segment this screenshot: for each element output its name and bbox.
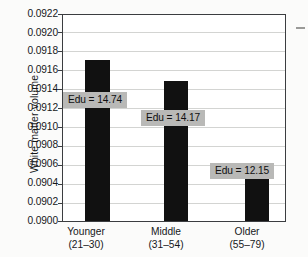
- y-axis-tick-labels: 0.0922 0.0920 0.0918 0.0916 0.0914 0.091…: [12, 0, 58, 257]
- y-tick-label: 0.0918: [14, 46, 58, 56]
- annotation-edu-middle: Edu = 14.17: [141, 110, 205, 126]
- x-tick-label-middle-range: (31–54): [140, 239, 192, 252]
- annotation-edu-older: Edu = 12.15: [210, 163, 274, 179]
- x-tick-label-older-name: Older: [235, 226, 260, 237]
- y-tick-label: 0.0902: [14, 197, 58, 207]
- x-tick-label-younger-range: (21–30): [58, 239, 114, 252]
- annotation-edu-younger: Edu = 14.74: [63, 92, 127, 108]
- y-tick-label: 0.0904: [14, 178, 58, 188]
- x-tick-label-middle-name: Middle: [151, 226, 181, 237]
- y-tick-label: 0.0912: [14, 103, 58, 113]
- bar-middle: [164, 81, 188, 221]
- y-tick-label: 0.0900: [14, 216, 58, 226]
- y-tick-label: 0.0908: [14, 140, 58, 150]
- y-tick-label: 0.0916: [14, 65, 58, 75]
- gridline: [63, 32, 285, 33]
- y-tick-label: 0.0906: [14, 159, 58, 169]
- x-tick-label-younger-name: Younger: [67, 226, 105, 237]
- chart-figure: White matter volume 0.0922 0.0920 0.0918…: [0, 0, 308, 257]
- bar-younger: [85, 60, 110, 221]
- x-tick-label-younger: Younger (21–30): [58, 226, 114, 251]
- gridline: [63, 51, 285, 52]
- x-tick-label-older-range: (55–79): [221, 239, 273, 252]
- y-tick-label: 0.0922: [14, 9, 58, 19]
- x-tick-label-older: Older (55–79): [221, 226, 273, 251]
- y-tick-label: 0.0920: [14, 28, 58, 38]
- y-tick-label: 0.0910: [14, 122, 58, 132]
- y-tick-label: 0.0914: [14, 84, 58, 94]
- scan-artifact: [296, 27, 305, 29]
- x-tick-label-middle: Middle (31–54): [140, 226, 192, 251]
